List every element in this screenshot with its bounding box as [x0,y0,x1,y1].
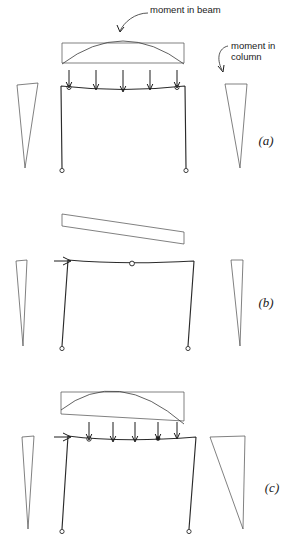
panel-label-c: (c) [265,480,279,495]
panel-c: (c) [0,352,299,536]
beam-moment-label: moment in beam [150,4,221,15]
sway-load-arrow-c [54,433,71,441]
hinge-midbeam-b [130,261,135,266]
beam-moment-rect-c [61,392,184,421]
frame-a [61,86,186,168]
frame-b [62,260,194,346]
beam-label-leader [120,13,148,31]
beam-moment-rect-a [62,43,184,63]
figure-canvas: (a) moment in beam moment in column (b) [0,0,299,536]
sway-load-arrow-b [54,257,71,265]
beam-moment-bowtie-b [62,214,184,244]
pin-support-left-c [60,529,64,533]
panel-label-a: (a) [258,133,273,148]
column-moment-right-a [225,84,247,168]
pin-support-right-a [184,168,188,172]
frame-c [62,436,196,529]
pin-support-right-b [186,346,190,350]
beam-moment-parabola-c [61,391,184,424]
column-moment-left-c [22,436,34,529]
pin-support-left-b [60,346,64,350]
column-moment-left-a [17,83,38,168]
panel-label-b: (b) [258,295,273,310]
panel-a: (a) [0,0,299,180]
column-moment-right-b [231,260,243,346]
pin-support-right-c [187,529,191,533]
pin-support-left-a [60,168,64,172]
beam-moment-parabola-a [62,41,184,64]
load-arrows-a [66,70,180,92]
column-moment-right-c [210,436,245,529]
panel-b: (b) [0,182,299,352]
column-moment-left-b [16,260,27,346]
column-moment-label-line1: moment in [231,40,275,51]
column-moment-label-line2: column [231,51,262,62]
